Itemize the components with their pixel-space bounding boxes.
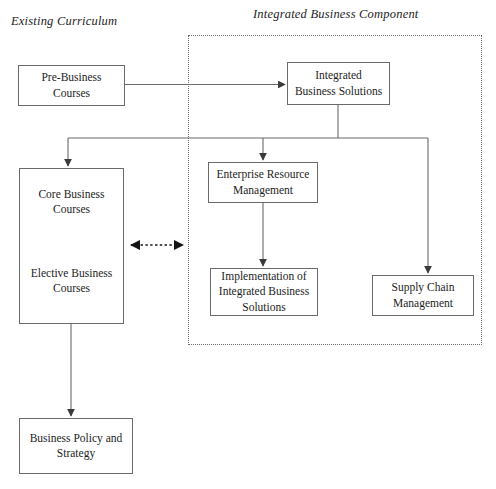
node-enterprise-resource-management[interactable]: Enterprise Resource Management (208, 162, 318, 203)
node-label-line: Solutions (242, 300, 285, 315)
node-label-line: Management (393, 296, 453, 311)
node-label-line: Integrated (315, 68, 362, 83)
node-core-business-courses[interactable]: Core Business Courses (20, 187, 123, 217)
node-implementation-of-integrated-business-solutions[interactable]: Implementation of Integrated Business So… (210, 268, 318, 316)
node-label-line: Management (233, 183, 293, 198)
node-label-line: Enterprise Resource (217, 167, 310, 182)
node-label-line: Strategy (57, 446, 95, 461)
node-elective-business-courses[interactable]: Elective Business Courses (20, 266, 123, 296)
diagram-canvas: Existing Curriculum Integrated Business … (0, 0, 496, 489)
section-label-integrated-business-component: Integrated Business Component (253, 7, 419, 22)
node-label-line: Courses (53, 86, 90, 101)
node-label-line: Elective Business (20, 266, 123, 281)
node-supply-chain-management[interactable]: Supply Chain Management (372, 275, 474, 316)
node-business-policy-and-strategy[interactable]: Business Policy and Strategy (19, 418, 133, 474)
node-label-line: Courses (20, 202, 123, 217)
node-pre-business-courses[interactable]: Pre-Business Courses (18, 65, 125, 106)
node-curriculum-courses-group[interactable]: Core Business Courses Elective Business … (19, 168, 124, 324)
node-label-line: Courses (20, 281, 123, 296)
section-label-existing-curriculum: Existing Curriculum (11, 14, 117, 29)
node-label-line: Business Policy and (30, 431, 123, 446)
node-label-line: Pre-Business (41, 70, 101, 85)
node-integrated-business-solutions[interactable]: Integrated Business Solutions (287, 62, 390, 105)
node-label-line: Business Solutions (295, 84, 382, 99)
node-label-line: Integrated Business (219, 284, 309, 299)
node-label-line: Core Business (20, 187, 123, 202)
node-label-line: Supply Chain (392, 280, 455, 295)
node-label-line: Implementation of (221, 269, 306, 284)
